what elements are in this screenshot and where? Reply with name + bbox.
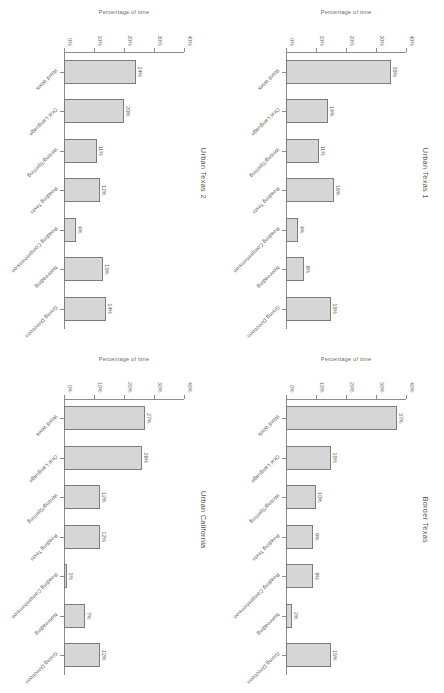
- chart-title: Urban Texas 2: [199, 0, 208, 347]
- value-axis-tick: [406, 395, 407, 399]
- chart-title: Urban California: [199, 347, 208, 693]
- value-axis-tick-label: 40%: [187, 35, 193, 46]
- value-axis-title: Percentage of time: [99, 9, 150, 15]
- value-axis-tick-label: 30%: [379, 35, 385, 46]
- category-axis-label: Reading Texts: [29, 186, 59, 216]
- value-axis-tick-label: 40%: [187, 382, 193, 393]
- value-axis-line: [286, 399, 406, 400]
- value-axis-tick-label: 40%: [409, 382, 415, 393]
- bar-value-label: 15%: [332, 303, 338, 314]
- bar: 14%: [64, 297, 106, 321]
- bar-value-label: 6%: [305, 265, 311, 273]
- value-axis-tick-label: 0%: [289, 38, 295, 46]
- bar: 16%: [286, 178, 334, 202]
- bar: 1%: [64, 564, 67, 588]
- category-axis-label: Writing/Spelling: [27, 493, 59, 525]
- value-axis-tick-label: 40%: [409, 35, 415, 46]
- value-axis-tick-label: 20%: [127, 382, 133, 393]
- bar-value-label: 13%: [104, 264, 110, 275]
- bar-value-label: 12%: [101, 650, 107, 661]
- bar: 7%: [64, 604, 85, 628]
- value-axis-tick: [346, 48, 347, 52]
- bar-value-label: 15%: [332, 452, 338, 463]
- category-axis-label: Word Work: [257, 68, 281, 92]
- category-axis-label: Oral Language: [250, 107, 281, 138]
- bar: 24%: [64, 60, 136, 84]
- bar: 12%: [64, 525, 100, 549]
- bar: 9%: [286, 525, 313, 549]
- bar-value-label: 4%: [299, 226, 305, 234]
- value-axis-line: [64, 52, 184, 53]
- category-axis-label: Word Work: [35, 414, 59, 438]
- chart-panel-urban-texas-2: Urban Texas 2 0%10%20%30%40%Percentage o…: [0, 0, 222, 347]
- value-axis-title: Percentage of time: [99, 356, 150, 362]
- bar: 15%: [286, 446, 331, 470]
- value-axis-tick-label: 10%: [97, 382, 103, 393]
- category-axis-label: Oral Language: [28, 107, 59, 138]
- value-axis-tick: [184, 48, 185, 52]
- value-axis-tick-label: 10%: [97, 35, 103, 46]
- plot-area: 0%10%20%30%40%Percentage of time24%Word …: [64, 52, 184, 329]
- chart-title: Border Texas: [421, 347, 430, 693]
- value-axis-tick-label: 30%: [157, 35, 163, 46]
- bar-value-label: 1%: [68, 572, 74, 580]
- plot-area: 0%10%20%30%40%Percentage of time35%Word …: [286, 52, 406, 329]
- bar-value-label: 16%: [335, 185, 341, 196]
- bar: 35%: [286, 60, 391, 84]
- value-axis-line: [64, 399, 184, 400]
- category-axis-label: Reading Texts: [251, 186, 281, 216]
- bar: 15%: [286, 643, 331, 667]
- chart-panel-border-texas: Border Texas 0%10%20%30%40%Percentage of…: [222, 347, 444, 693]
- value-axis-tick-label: 30%: [379, 382, 385, 393]
- category-axis-label: Writing/Spelling: [249, 493, 281, 525]
- bar-value-label: 9%: [314, 572, 320, 580]
- value-axis-tick-label: 0%: [67, 38, 73, 46]
- bar: 12%: [64, 485, 100, 509]
- bar: 9%: [286, 564, 313, 588]
- value-axis-tick-label: 20%: [127, 35, 133, 46]
- bar: 26%: [64, 446, 142, 470]
- bar-value-label: 27%: [146, 413, 152, 424]
- bar: 15%: [286, 297, 331, 321]
- category-axis-label: Giving Directions: [246, 305, 281, 340]
- value-axis-tick-label: 0%: [289, 385, 295, 393]
- bar: 11%: [286, 139, 319, 163]
- category-axis-label: Word Work: [35, 68, 59, 92]
- value-axis-title: Percentage of time: [321, 9, 372, 15]
- category-axis-label: Word Work: [257, 414, 281, 438]
- chart-panel-urban-california: Urban California 0%10%20%30%40%Percentag…: [0, 347, 222, 693]
- value-axis-title: Percentage of time: [321, 356, 372, 362]
- bar: 37%: [286, 406, 397, 430]
- chart-panel-urban-texas-1: Urban Texas 1 0%10%20%30%40%Percentage o…: [222, 0, 444, 347]
- category-axis-label: Giving Directions: [246, 651, 281, 686]
- bar-value-label: 7%: [86, 612, 92, 620]
- bar-value-label: 37%: [398, 413, 404, 424]
- category-axis-label: Oral Language: [28, 454, 59, 485]
- value-axis-tick: [154, 395, 155, 399]
- category-axis-label: Writing/Spelling: [27, 147, 59, 179]
- value-axis-tick: [406, 48, 407, 52]
- bar-value-label: 9%: [314, 533, 320, 541]
- bar-value-label: 26%: [143, 452, 149, 463]
- value-axis-tick-label: 10%: [319, 382, 325, 393]
- category-axis-label: Reading Texts: [251, 533, 281, 563]
- bar: 4%: [286, 218, 298, 242]
- category-axis-label: Writing/Spelling: [249, 147, 281, 179]
- bar-value-label: 20%: [125, 106, 131, 117]
- category-axis-label: Nonreading: [256, 612, 281, 637]
- category-axis-label: Nonreading: [34, 612, 59, 637]
- value-axis-tick: [376, 48, 377, 52]
- bar-value-label: 35%: [392, 66, 398, 77]
- value-axis-tick: [94, 395, 95, 399]
- chart-grid: Urban Texas 1 0%10%20%30%40%Percentage o…: [0, 0, 444, 693]
- bar-value-label: 15%: [332, 650, 338, 661]
- value-axis-tick: [124, 395, 125, 399]
- bar: 20%: [64, 99, 124, 123]
- value-axis-tick: [154, 48, 155, 52]
- category-axis-label: Nonreading: [256, 265, 281, 290]
- bar: 14%: [286, 99, 328, 123]
- chart-title: Urban Texas 1: [421, 0, 430, 347]
- category-axis-label: Nonreading: [34, 265, 59, 290]
- bar-value-label: 11%: [320, 146, 326, 156]
- bar-value-label: 4%: [77, 226, 83, 234]
